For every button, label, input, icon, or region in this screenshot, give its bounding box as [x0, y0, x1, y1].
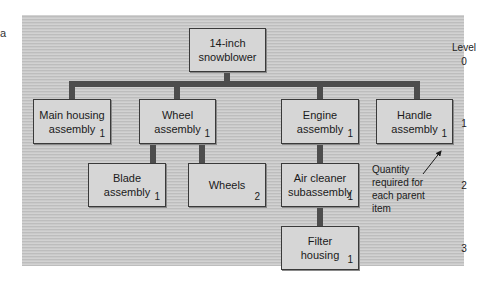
annotation-arrow-icon [0, 0, 504, 299]
